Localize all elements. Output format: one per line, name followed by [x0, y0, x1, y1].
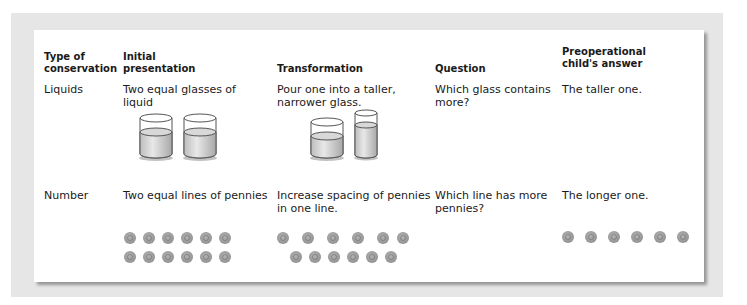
row-number-question: Which line has more pennies? [435, 189, 547, 215]
penny-icon [200, 232, 212, 244]
header-initial: Initial presentation [123, 51, 195, 75]
penny-icon [347, 251, 359, 263]
row-liquids-answer: The taller one. [562, 83, 642, 96]
row-liquids-type: Liquids [44, 83, 83, 96]
short-and-tall-glass-icon [309, 108, 389, 164]
penny-icon [397, 232, 409, 244]
penny-icon [302, 232, 314, 244]
penny-icon [124, 232, 136, 244]
penny-icon [219, 251, 231, 263]
header-question: Question [435, 63, 486, 75]
row-liquids-initial: Two equal glasses of liquid [123, 83, 236, 109]
penny-icon [377, 232, 389, 244]
penny-icon [290, 251, 302, 263]
penny-icon [124, 251, 136, 263]
row-liquids-question: Which glass contains more? [435, 83, 551, 109]
penny-icon [385, 251, 397, 263]
row-number-type: Number [44, 189, 88, 202]
row-liquids-transformation: Pour one into a taller, narrower glass. [277, 83, 396, 109]
row-number-transformation: Increase spacing of pennies in one line. [277, 189, 430, 215]
penny-icon [328, 251, 340, 263]
penny-icon [143, 232, 155, 244]
penny-icon [352, 232, 364, 244]
header-answer: Preoperational child's answer [562, 46, 646, 70]
penny-icon [654, 231, 666, 243]
penny-icon [162, 251, 174, 263]
header-transformation: Transformation [277, 63, 363, 75]
penny-icon [277, 232, 289, 244]
row-number-answer: The longer one. [562, 189, 648, 202]
row-number-initial: Two equal lines of pennies [123, 189, 268, 202]
penny-icon [677, 231, 689, 243]
two-equal-glasses-icon [138, 112, 228, 162]
penny-icon [181, 232, 193, 244]
penny-icon [309, 251, 321, 263]
penny-icon [327, 232, 339, 244]
penny-icon [608, 231, 620, 243]
penny-icon [366, 251, 378, 263]
penny-icon [631, 231, 643, 243]
penny-icon [143, 251, 155, 263]
header-type: Type of conservation [44, 51, 117, 75]
penny-icon [585, 231, 597, 243]
penny-icon [181, 251, 193, 263]
penny-icon [162, 232, 174, 244]
penny-icon [219, 232, 231, 244]
penny-icon [562, 231, 574, 243]
penny-icon [200, 251, 212, 263]
